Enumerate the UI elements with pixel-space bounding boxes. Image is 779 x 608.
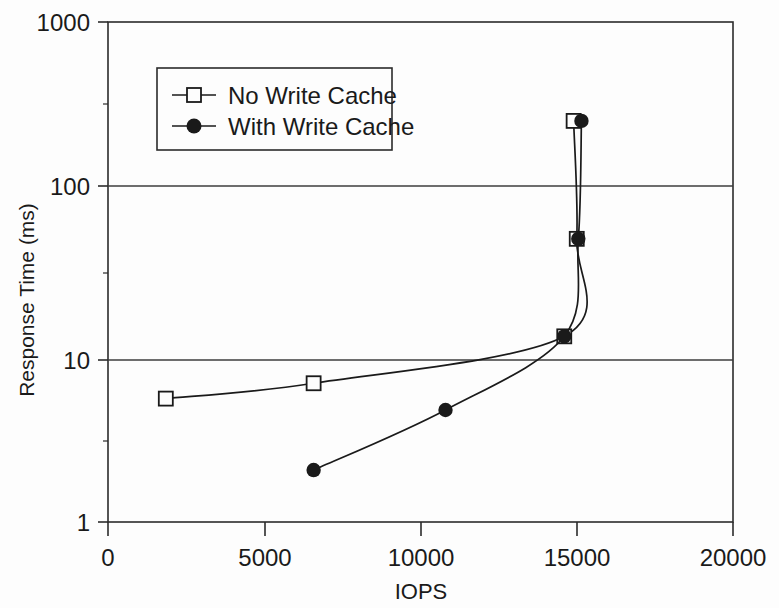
chart-root: 1000 100 10 1 Response Time (ms) 0 5000 … xyxy=(0,0,779,608)
data-point-filled-circle[interactable] xyxy=(571,232,585,246)
data-point-filled-circle[interactable] xyxy=(438,403,452,417)
data-point-filled-circle[interactable] xyxy=(557,329,571,343)
y-tick-label-1: 1 xyxy=(77,509,90,536)
data-point-filled-circle[interactable] xyxy=(574,114,588,128)
data-point-open-square[interactable] xyxy=(307,376,321,390)
y-tick-label-10: 10 xyxy=(63,347,90,374)
x-tick-label-20000: 20000 xyxy=(700,544,767,571)
filled-circle-icon xyxy=(187,119,202,134)
legend-label-with-write-cache: With Write Cache xyxy=(228,113,414,140)
legend-label-no-write-cache: No Write Cache xyxy=(228,82,397,109)
x-tick-label-15000: 15000 xyxy=(544,544,611,571)
legend: No Write Cache With Write Cache xyxy=(157,68,414,150)
y-tick-label-1000: 1000 xyxy=(37,9,90,36)
y-tick-label-100: 100 xyxy=(50,173,90,200)
x-tick-label-5000: 5000 xyxy=(238,544,291,571)
y-axis-title: Response Time (ms) xyxy=(15,203,38,397)
data-point-filled-circle[interactable] xyxy=(306,463,320,477)
x-tick-label-10000: 10000 xyxy=(388,544,455,571)
x-axis-title: IOPS xyxy=(395,579,448,604)
response-time-vs-iops-chart: 1000 100 10 1 Response Time (ms) 0 5000 … xyxy=(0,0,779,608)
x-tick-label-0: 0 xyxy=(101,544,114,571)
data-point-open-square[interactable] xyxy=(159,392,173,406)
open-square-icon xyxy=(187,88,201,102)
